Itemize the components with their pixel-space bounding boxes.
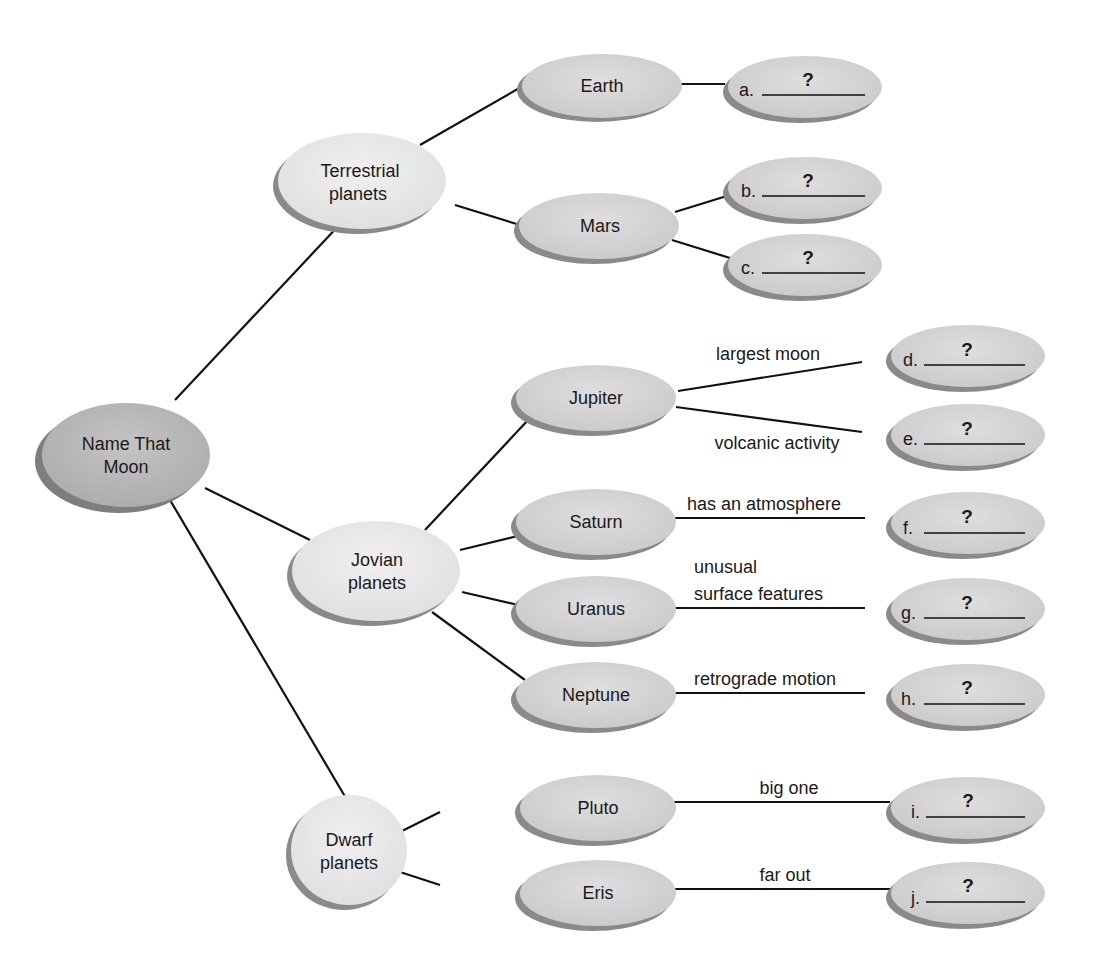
planet-label: Mars: [580, 216, 620, 236]
edge-label-atmosphere: has an atmosphere: [687, 494, 841, 514]
question-mark: ?: [961, 418, 973, 439]
planet-label: Uranus: [567, 599, 625, 619]
planet-node-uranus: Uranus: [511, 576, 676, 647]
root-label-line1: Name That: [82, 434, 171, 454]
planet-label: Pluto: [577, 798, 618, 818]
answer-node-b[interactable]: b. ?: [723, 157, 882, 224]
edge-label-far-out: far out: [759, 865, 810, 885]
category-label-line1: Terrestrial: [320, 161, 399, 181]
planet-node-pluto: Pluto: [515, 775, 676, 846]
answer-letter: b.: [741, 181, 756, 201]
answer-letter: e.: [903, 429, 918, 449]
answer-node-g[interactable]: g. ?: [886, 578, 1045, 645]
answer-letter: i.: [911, 802, 920, 822]
category-node-terrestrial: Terrestrial planets: [273, 133, 446, 234]
edge-label-unusual: unusual: [694, 557, 757, 577]
answer-node-d[interactable]: d. ?: [886, 325, 1045, 392]
answer-letter: c.: [741, 258, 755, 278]
answer-letter: j.: [910, 888, 920, 908]
edge-label-volcanic-activity: volcanic activity: [714, 433, 839, 453]
planet-node-mars: Mars: [514, 193, 679, 264]
root-label-line2: Moon: [103, 457, 148, 477]
question-mark: ?: [802, 170, 814, 191]
category-label-line2: planets: [348, 573, 406, 593]
planet-label: Earth: [580, 76, 623, 96]
category-label-line1: Jovian: [351, 550, 403, 570]
question-mark: ?: [961, 339, 973, 360]
planet-node-neptune: Neptune: [511, 662, 676, 733]
planet-node-earth: Earth: [517, 54, 682, 122]
question-mark: ?: [961, 506, 973, 527]
root-node: Name That Moon: [35, 403, 210, 513]
planet-label: Saturn: [569, 512, 622, 532]
answer-node-a[interactable]: a. ?: [723, 56, 882, 123]
question-mark: ?: [962, 790, 974, 811]
planet-label: Eris: [583, 883, 614, 903]
answer-node-h[interactable]: h. ?: [886, 664, 1045, 731]
concept-map: Name That Moon Terrestrial planets Jovia…: [0, 0, 1100, 974]
category-label-line2: planets: [329, 184, 387, 204]
answer-node-e[interactable]: e. ?: [886, 404, 1045, 471]
planet-node-eris: Eris: [515, 860, 676, 931]
category-label-line2: planets: [320, 853, 378, 873]
question-mark: ?: [961, 592, 973, 613]
planet-label: Neptune: [562, 685, 630, 705]
edge-label-big-one: big one: [759, 778, 818, 798]
planet-label: Jupiter: [569, 388, 623, 408]
planet-node-jupiter: Jupiter: [511, 365, 676, 436]
question-mark: ?: [962, 875, 974, 896]
answer-letter: f.: [903, 518, 913, 538]
question-mark: ?: [961, 677, 973, 698]
question-mark: ?: [802, 247, 814, 268]
answer-letter: a.: [739, 80, 754, 100]
answer-node-i[interactable]: i. ?: [886, 777, 1045, 844]
answer-node-j[interactable]: j. ?: [886, 862, 1045, 929]
answer-letter: g.: [901, 603, 916, 623]
question-mark: ?: [802, 69, 814, 90]
edge-label-largest-moon: largest moon: [716, 344, 820, 364]
category-label-line1: Dwarf: [325, 830, 373, 850]
planet-node-saturn: Saturn: [511, 489, 676, 560]
edge-label-retrograde-motion: retrograde motion: [694, 669, 836, 689]
answer-letter: h.: [901, 689, 916, 709]
answer-node-c[interactable]: c. ?: [723, 234, 882, 301]
category-node-dwarf: Dwarf planets: [286, 795, 407, 910]
answer-letter: d.: [903, 350, 918, 370]
answer-node-f[interactable]: f. ?: [886, 492, 1045, 559]
edge-label-surface-features: surface features: [694, 584, 823, 604]
category-node-jovian: Jovian planets: [287, 521, 460, 626]
